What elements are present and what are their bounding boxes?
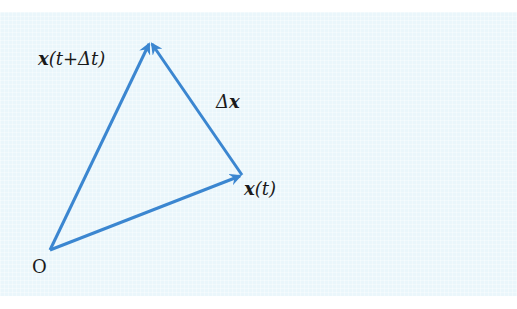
origin-text: O — [32, 256, 47, 277]
delta-symbol: Δ — [216, 91, 229, 112]
delta-x-label: Δx — [216, 93, 240, 111]
x-t-label: x(t) — [244, 180, 276, 198]
x-t-dt-label: x(t+Δt) — [38, 50, 105, 68]
vector-x-t-plus-dt — [50, 44, 149, 250]
vector-x-t — [50, 176, 240, 250]
x-vector-symbol: x — [229, 91, 240, 112]
x-t-dt-args: (t+Δt) — [49, 48, 106, 69]
origin-label: O — [32, 258, 47, 276]
x-vector-symbol: x — [244, 178, 255, 199]
x-vector-symbol: x — [38, 48, 49, 69]
vector-diagram — [0, 0, 517, 309]
x-t-args: (t) — [255, 178, 276, 199]
